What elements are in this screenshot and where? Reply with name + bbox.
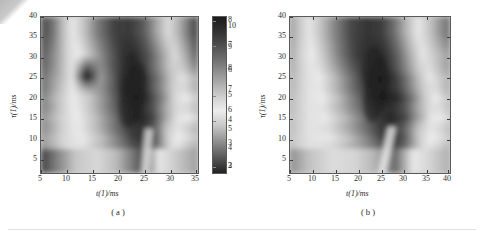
cbar-tick-a-2 bbox=[213, 71, 216, 72]
yticklabel-b-3: 25 bbox=[264, 72, 286, 81]
cbarlabel-b-2: 8 bbox=[228, 63, 248, 72]
tick-y-a-4 bbox=[41, 99, 44, 100]
tick-y-a-0 bbox=[41, 17, 44, 18]
tick-xtop-b-6 bbox=[427, 17, 428, 20]
panel-a: 5 10 15 20 25 30 35 40 35 30 25 20 15 10… bbox=[0, 0, 242, 235]
xticklabel-a-2: 15 bbox=[80, 174, 104, 183]
xticklabel-a-6: 35 bbox=[183, 174, 207, 183]
caption-b: ( b ) bbox=[338, 207, 398, 217]
xticklabel-a-1: 10 bbox=[54, 174, 78, 183]
xticklabel-b-2: 15 bbox=[323, 174, 347, 183]
yticklabel-b-0: 40 bbox=[264, 11, 286, 20]
yticklabel-a-7: 5 bbox=[15, 154, 37, 163]
panel-b: 5 10 15 20 25 30 35 40 40 35 30 25 20 15… bbox=[242, 0, 484, 235]
tick-y-a-3 bbox=[41, 78, 44, 79]
yticklabel-a-0: 40 bbox=[15, 11, 37, 20]
tick-x-a-3 bbox=[119, 170, 120, 173]
cbarlabel-b-7: 3 bbox=[228, 161, 248, 170]
cbarlabel-b-4: 6 bbox=[228, 105, 248, 114]
tick-x-a-4 bbox=[145, 170, 146, 173]
tick-x-b-3 bbox=[359, 170, 360, 173]
cbar-tick-a-1 bbox=[213, 46, 216, 47]
cbarlabel-b-6: 4 bbox=[228, 143, 248, 152]
figure-two-panel-contour: 5 10 15 20 25 30 35 40 35 30 25 20 15 10… bbox=[0, 0, 484, 235]
tick-x-b-6 bbox=[427, 170, 428, 173]
cbar-tick-a-0 bbox=[213, 21, 216, 22]
tick-y-b-1 bbox=[290, 37, 293, 38]
xticklabel-b-0: 5 bbox=[277, 174, 301, 183]
tick-xtop-b-4 bbox=[382, 17, 383, 20]
xticklabel-b-1: 10 bbox=[300, 174, 324, 183]
tick-xtop-a-4 bbox=[145, 17, 146, 20]
heatmap-b bbox=[290, 17, 450, 173]
tick-x-b-7 bbox=[448, 170, 449, 173]
yaxis-title-b: τ(1)/ms bbox=[258, 95, 267, 118]
yticklabel-a-5: 15 bbox=[15, 113, 37, 122]
cbar-tick-a-6 bbox=[213, 167, 216, 168]
tick-x-b-0 bbox=[290, 170, 291, 173]
tick-y-b-4 bbox=[290, 99, 293, 100]
xticklabel-a-5: 30 bbox=[158, 174, 182, 183]
tick-yright-b-6 bbox=[447, 140, 450, 141]
tick-y-a-6 bbox=[41, 140, 44, 141]
yticklabel-b-6: 10 bbox=[264, 134, 286, 143]
yticklabel-b-1: 35 bbox=[264, 31, 286, 40]
xticklabel-b-4: 25 bbox=[369, 174, 393, 183]
tick-yright-b-5 bbox=[447, 119, 450, 120]
tick-xtop-b-5 bbox=[404, 17, 405, 20]
tick-xtop-a-5 bbox=[171, 17, 172, 20]
yticklabel-a-3: 25 bbox=[15, 72, 37, 81]
yticklabel-b-4: 20 bbox=[264, 93, 286, 102]
tick-xtop-a-1 bbox=[67, 17, 68, 20]
tick-x-a-2 bbox=[93, 170, 94, 173]
tick-yright-b-3 bbox=[447, 78, 450, 79]
tick-y-b-3 bbox=[290, 78, 293, 79]
xticklabel-a-4: 25 bbox=[132, 174, 156, 183]
yaxis-title-a: τ(1)/ms bbox=[9, 95, 18, 118]
tick-yright-b-2 bbox=[447, 58, 450, 59]
tick-x-a-6 bbox=[196, 170, 197, 173]
xaxis-title-a: t(1)/ms bbox=[96, 189, 119, 198]
tick-y-a-1 bbox=[41, 37, 44, 38]
tick-x-b-5 bbox=[404, 170, 405, 173]
tick-xtop-a-3 bbox=[119, 17, 120, 20]
cbarlabel-b-3: 7 bbox=[228, 84, 248, 93]
tick-xtop-b-3 bbox=[359, 17, 360, 20]
tick-x-a-0 bbox=[41, 170, 42, 173]
tick-y-b-2 bbox=[290, 58, 293, 59]
tick-y-b-6 bbox=[290, 140, 293, 141]
colorbar-a bbox=[212, 16, 227, 174]
tick-x-a-5 bbox=[171, 170, 172, 173]
tick-xtop-b-2 bbox=[336, 17, 337, 20]
yticklabel-a-4: 20 bbox=[15, 93, 37, 102]
cbarlabel-b-5: 5 bbox=[228, 124, 248, 133]
yticklabel-b-5: 15 bbox=[264, 113, 286, 122]
tick-xtop-a-2 bbox=[93, 17, 94, 20]
tick-y-a-2 bbox=[41, 58, 44, 59]
xticklabel-a-0: 5 bbox=[28, 174, 52, 183]
yticklabel-b-7: 5 bbox=[264, 154, 286, 163]
plot-area-a bbox=[40, 16, 199, 174]
caption-a: ( a ) bbox=[88, 207, 148, 217]
tick-x-a-1 bbox=[67, 170, 68, 173]
xaxis-title-b: t(1)/ms bbox=[346, 189, 369, 198]
tick-y-b-7 bbox=[290, 160, 293, 161]
tick-xtop-b-1 bbox=[313, 17, 314, 20]
yticklabel-b-2: 30 bbox=[264, 52, 286, 61]
yticklabel-a-1: 35 bbox=[15, 31, 37, 40]
colorbar-gradient-a bbox=[213, 17, 226, 173]
cbar-tick-a-5 bbox=[213, 144, 216, 145]
cbar-tick-a-3 bbox=[213, 96, 216, 97]
xticklabel-b-3: 20 bbox=[346, 174, 370, 183]
cbar-tick-a-4 bbox=[213, 121, 216, 122]
tick-y-b-0 bbox=[290, 17, 293, 18]
tick-y-b-5 bbox=[290, 119, 293, 120]
cbarlabel-b-1: 9 bbox=[228, 42, 248, 51]
yticklabel-a-6: 10 bbox=[15, 134, 37, 143]
tick-x-b-2 bbox=[336, 170, 337, 173]
xticklabel-b-5: 30 bbox=[391, 174, 415, 183]
tick-x-b-1 bbox=[313, 170, 314, 173]
tick-yright-b-4 bbox=[447, 99, 450, 100]
heatmap-a bbox=[41, 17, 198, 173]
xticklabel-a-3: 20 bbox=[106, 174, 130, 183]
